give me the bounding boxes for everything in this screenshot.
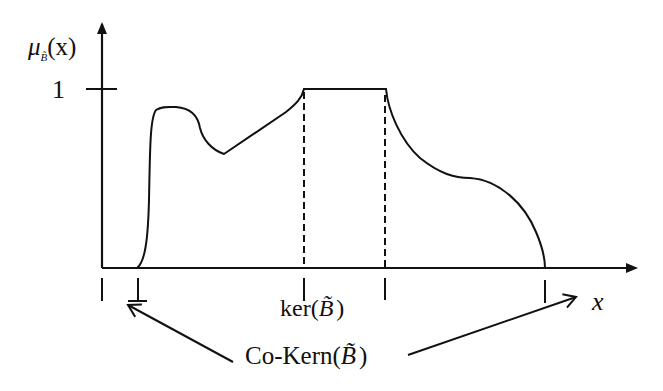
cokernel-arrow-right: [408, 297, 576, 355]
svg-text:ker(B̃): ker(B̃): [280, 295, 344, 321]
membership-diagram: μB̃(x) 1 x ker(B̃) Co-Kern(B̃): [0, 0, 663, 391]
kernel-label-suffix: ): [336, 295, 344, 321]
cokernel-label-prefix: Co-Kern(: [245, 342, 341, 370]
y-tick-label: 1: [52, 75, 65, 104]
svg-text:Co-Kern(B̃): Co-Kern(B̃): [245, 342, 367, 370]
cokernel-label-suffix: ): [359, 342, 367, 370]
y-axis-label-arg: (x): [47, 33, 76, 61]
membership-curve: [102, 89, 545, 268]
cokernel-label-symbol: B̃: [341, 342, 356, 369]
x-axis-label: x: [591, 287, 604, 316]
cokernel-arrow-left: [128, 305, 233, 362]
kernel-label-symbol: B̃: [319, 295, 334, 321]
y-axis-label-mu: μ: [27, 33, 41, 60]
svg-text:μB̃(x): μB̃(x): [27, 33, 76, 63]
kernel-label-prefix: ker(: [280, 295, 319, 321]
